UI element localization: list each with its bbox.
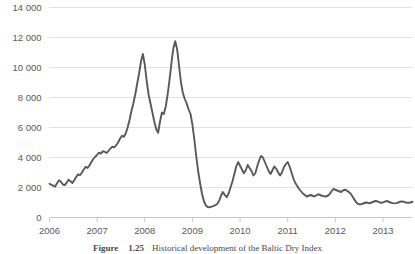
y-tick-label: 2 000 bbox=[18, 182, 42, 193]
y-tick-label: 4 000 bbox=[18, 152, 42, 163]
x-tick-label: 2011 bbox=[277, 225, 297, 236]
x-tick-label: 2012 bbox=[325, 225, 346, 236]
gridlines bbox=[50, 8, 413, 188]
y-axis-tick-labels: 02 0004 0006 0008 00010 00012 00014 000 bbox=[12, 2, 41, 223]
y-tick-label: 10 000 bbox=[12, 62, 41, 73]
line-chart: 02 0004 0006 0008 00010 00012 00014 000 … bbox=[0, 0, 415, 254]
y-tick-label: 0 bbox=[36, 212, 41, 223]
x-tick-label: 2010 bbox=[229, 225, 250, 236]
x-axis-tick-labels: 20062007200820092010201120122013 bbox=[39, 225, 394, 236]
x-tick-label: 2009 bbox=[182, 225, 203, 236]
figure-container: 02 0004 0006 0008 00010 00012 00014 000 … bbox=[0, 0, 415, 254]
x-tick-label: 2007 bbox=[87, 225, 108, 236]
series-line bbox=[50, 41, 413, 207]
y-tick-label: 14 000 bbox=[12, 2, 41, 13]
figure-caption: Figure1.25Historical development of the … bbox=[0, 243, 415, 254]
y-tick-label: 8 000 bbox=[18, 92, 42, 103]
x-tick-label: 2013 bbox=[372, 225, 393, 236]
caption-number: 1.25 bbox=[128, 243, 144, 253]
x-axis-tick-marks bbox=[50, 218, 383, 223]
y-tick-label: 6 000 bbox=[18, 122, 42, 133]
x-tick-label: 2008 bbox=[134, 225, 155, 236]
y-tick-label: 12 000 bbox=[12, 32, 41, 43]
caption-text: Historical development of the Baltic Dry… bbox=[152, 243, 322, 253]
caption-label: Figure bbox=[93, 243, 118, 253]
data-series bbox=[50, 41, 413, 207]
x-tick-label: 2006 bbox=[39, 225, 60, 236]
